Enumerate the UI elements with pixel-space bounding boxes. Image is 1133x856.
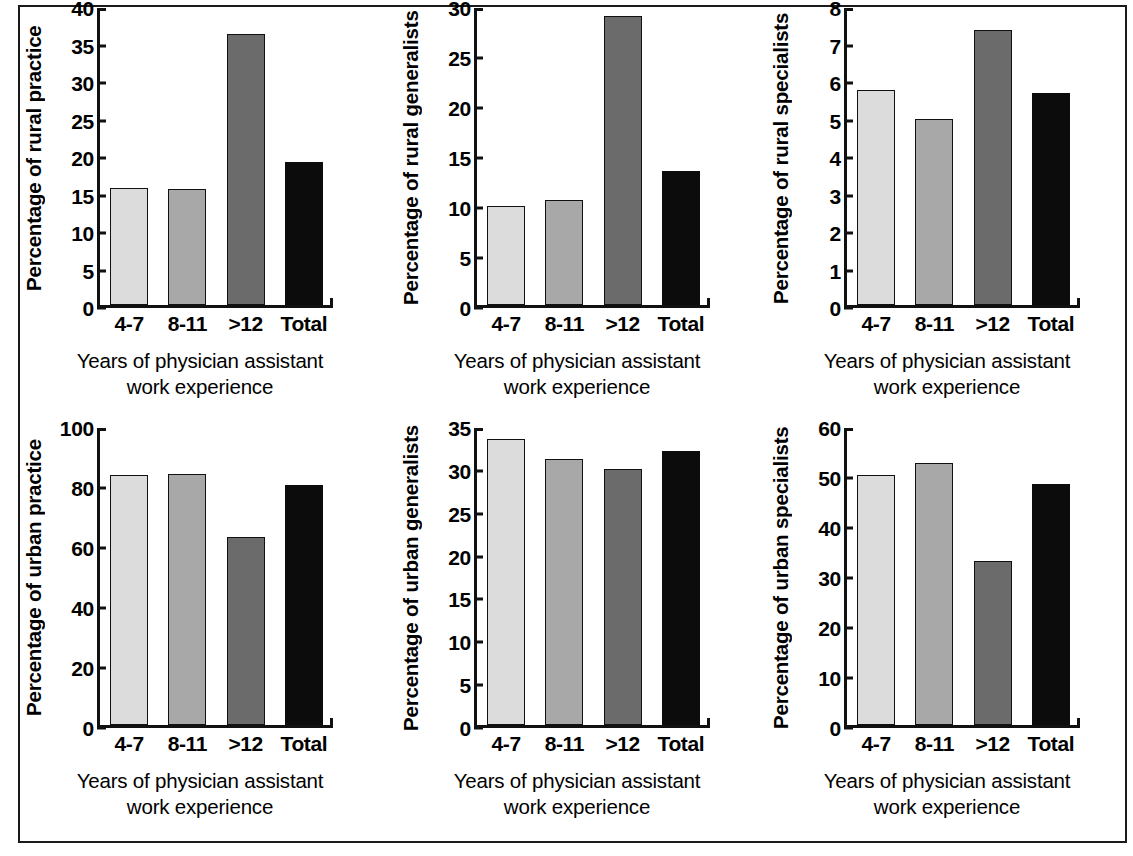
x-axis-category-labels: 4-78-11>12Total	[474, 312, 714, 340]
x-category-label: 8-11	[915, 732, 954, 756]
y-tick-label: 100	[60, 418, 94, 439]
x-axis-left-cap	[97, 718, 100, 728]
y-tick-label: 60	[71, 538, 94, 559]
x-category-label: 4-7	[115, 312, 144, 336]
y-axis-label: Percentage of urban specialists	[769, 428, 793, 728]
bar-47	[857, 475, 895, 725]
plot-area: Percentage of rural generalists 05101520…	[377, 0, 747, 420]
chart-panel-top-middle: Percentage of rural generalists 05101520…	[377, 0, 747, 420]
bar-series	[477, 428, 710, 725]
chart-panel-bottom-middle: Percentage of urban generalists 05101520…	[377, 420, 747, 856]
y-tick-label: 25	[71, 110, 94, 131]
bar-811	[915, 463, 953, 725]
y-tick-label: 10	[448, 632, 471, 653]
y-tick-label: 3	[830, 185, 841, 206]
plot-area: Percentage of urban practice 02040608010…	[0, 420, 377, 856]
bar-Total	[662, 171, 700, 305]
x-axis-category-labels: 4-78-11>12Total	[844, 732, 1084, 760]
y-tick-label: 10	[71, 223, 94, 244]
y-tick-label: 0	[83, 298, 94, 319]
x-axis-title: Years of physician assistantwork experie…	[797, 348, 1097, 400]
x-axis-right-cap	[330, 298, 333, 308]
y-tick-label: 35	[71, 35, 94, 56]
y-tick-label: 4	[830, 148, 841, 169]
y-tick-label: 8	[830, 0, 841, 19]
y-tick-label: 20	[448, 98, 471, 119]
x-category-label: >12	[228, 732, 262, 756]
chart-panel-bottom-left: Percentage of urban practice 02040608010…	[0, 420, 377, 856]
y-tick-label: 40	[71, 0, 94, 19]
y-tick-label: 25	[448, 503, 471, 524]
x-axis-left-cap	[474, 718, 477, 728]
bar-47	[857, 90, 895, 305]
x-category-label: 4-7	[115, 732, 144, 756]
y-tick-label: 30	[448, 0, 471, 19]
x-axis-left-cap	[844, 298, 847, 308]
x-axis-category-labels: 4-78-11>12Total	[97, 732, 337, 760]
y-tick-label: 5	[83, 260, 94, 281]
y-tick-label: 0	[460, 298, 471, 319]
plot-area: Percentage of urban specialists 01020304…	[747, 420, 1133, 856]
x-category-label: Total	[281, 732, 328, 756]
y-axis-tick-labels: 0102030405060	[793, 428, 841, 728]
chart-panel-bottom-right: Percentage of urban specialists 01020304…	[747, 420, 1133, 856]
bar-12	[974, 561, 1012, 725]
bar-12	[227, 34, 265, 305]
x-category-label: >12	[228, 312, 262, 336]
y-tick-label: 5	[460, 675, 471, 696]
x-category-label: 8-11	[545, 732, 584, 756]
y-tick-label: 50	[818, 468, 841, 489]
x-category-label: Total	[658, 312, 705, 336]
y-axis-label: Percentage of rural generalists	[399, 8, 423, 308]
bar-811	[545, 459, 583, 725]
y-tick-label: 1	[830, 260, 841, 281]
y-tick-label: 7	[830, 35, 841, 56]
y-tick-label: 0	[830, 298, 841, 319]
bar-series	[847, 428, 1080, 725]
x-category-label: 4-7	[492, 312, 521, 336]
bar-Total	[285, 162, 323, 305]
y-tick-label: 10	[818, 668, 841, 689]
y-tick-label: 0	[83, 718, 94, 739]
x-category-label: >12	[975, 312, 1009, 336]
chart-panel-top-left: Percentage of rural practice 05101520253…	[0, 0, 377, 420]
plot-area: Percentage of urban generalists 05101520…	[377, 420, 747, 856]
x-axis-right-cap	[1077, 298, 1080, 308]
x-axis	[844, 725, 1080, 728]
y-tick-label: 30	[448, 460, 471, 481]
y-axis-label: Percentage of urban generalists	[399, 428, 423, 728]
y-tick-label: 60	[818, 418, 841, 439]
y-axis-tick-labels: 05101520253035	[423, 428, 471, 728]
x-axis-title: Years of physician assistantwork experie…	[797, 768, 1097, 820]
x-axis	[474, 725, 710, 728]
bar-12	[604, 469, 642, 725]
y-tick-label: 15	[448, 589, 471, 610]
x-category-label: >12	[605, 312, 639, 336]
y-tick-label: 0	[460, 718, 471, 739]
y-axis-label: Percentage of rural specialists	[769, 8, 793, 308]
x-category-label: Total	[658, 732, 705, 756]
y-axis-tick-labels: 020406080100	[46, 428, 94, 728]
y-tick-label: 80	[71, 478, 94, 499]
bar-12	[974, 30, 1012, 305]
x-category-label: 4-7	[492, 732, 521, 756]
x-axis-title: Years of physician assistantwork experie…	[427, 348, 727, 400]
bar-47	[487, 439, 525, 725]
y-tick-label: 20	[71, 658, 94, 679]
x-category-label: >12	[975, 732, 1009, 756]
x-axis-title: Years of physician assistantwork experie…	[427, 768, 727, 820]
bar-12	[227, 537, 265, 725]
x-axis-category-labels: 4-78-11>12Total	[474, 732, 714, 760]
y-tick-label: 35	[448, 418, 471, 439]
x-axis-title: Years of physician assistantwork experie…	[50, 768, 350, 820]
x-category-label: 8-11	[168, 312, 207, 336]
bar-series	[477, 8, 710, 305]
y-tick-label: 20	[71, 148, 94, 169]
x-axis	[97, 305, 333, 308]
y-tick-label: 40	[818, 518, 841, 539]
y-axis-label: Percentage of urban practice	[22, 428, 46, 728]
bar-47	[487, 206, 525, 305]
y-tick-label: 6	[830, 73, 841, 94]
x-axis-right-cap	[1077, 718, 1080, 728]
x-category-label: Total	[1028, 732, 1075, 756]
